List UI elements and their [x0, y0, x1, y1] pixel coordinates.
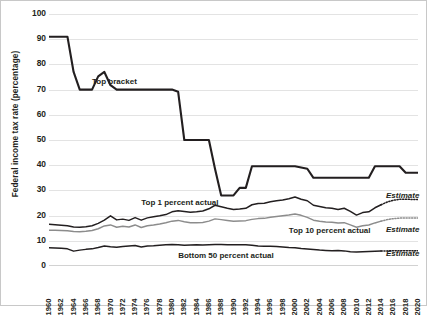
- x-tick-label: 2016: [389, 299, 398, 315]
- annotation-3: Bottom 50 percent actual: [178, 251, 274, 260]
- x-tick-label: 2018: [401, 299, 410, 315]
- x-tick-label: 1998: [278, 299, 287, 315]
- x-tick-label: 1968: [94, 299, 103, 315]
- x-tick-label: 1972: [118, 299, 127, 315]
- x-tick-label: 2012: [364, 299, 373, 315]
- y-tick-label: 40: [12, 160, 46, 169]
- annotation-0: Top bracket: [92, 77, 137, 86]
- y-tick-label: 10: [12, 236, 46, 245]
- estimate-line-1: [381, 218, 418, 221]
- x-tick-label: 1976: [143, 299, 152, 315]
- x-tick-label: 2010: [352, 299, 361, 315]
- estimate-line-0: [381, 199, 418, 205]
- x-tick-label: 2000: [290, 299, 299, 315]
- y-tick-label: 0: [12, 261, 46, 270]
- y-tick-label: 50: [12, 135, 46, 144]
- x-tick-label: 1974: [131, 299, 140, 315]
- y-tick-label: 80: [12, 59, 46, 68]
- x-tick-label: 1986: [204, 299, 213, 315]
- x-tick-label: 2004: [315, 299, 324, 315]
- y-tick-label: 70: [12, 85, 46, 94]
- x-tick-label: 2020: [413, 299, 422, 315]
- x-axis-ticks: 1960196219641966196819701972197419761978…: [49, 269, 418, 307]
- x-tick-label: 1960: [44, 299, 53, 315]
- x-tick-label: 2006: [327, 299, 336, 315]
- x-tick-label: 2002: [303, 299, 312, 315]
- x-tick-label: 1984: [192, 299, 201, 315]
- x-tick-label: 1964: [69, 299, 78, 315]
- x-tick-label: 1990: [229, 299, 238, 315]
- x-tick-label: 1992: [241, 299, 250, 315]
- x-tick-label: 2014: [377, 299, 386, 315]
- y-tick-label: 60: [12, 110, 46, 119]
- x-tick-label: 1996: [266, 299, 275, 315]
- x-tick-label: 1966: [81, 299, 90, 315]
- series-line-0: [49, 37, 418, 196]
- x-tick-label: 1980: [167, 299, 176, 315]
- y-axis-ticks: 0102030405060708090100: [6, 1, 46, 307]
- y-tick-label: 100: [12, 9, 46, 18]
- annotation-1: Top 1 percent actual: [141, 198, 218, 207]
- estimate-label-2: Estimate: [386, 249, 419, 258]
- y-tick-label: 90: [12, 34, 46, 43]
- x-tick-label: 1988: [217, 299, 226, 315]
- y-tick-label: 20: [12, 211, 46, 220]
- x-tick-label: 1970: [106, 299, 115, 315]
- x-tick-label: 1962: [57, 299, 66, 315]
- x-tick-label: 1982: [180, 299, 189, 315]
- y-tick-label: 30: [12, 185, 46, 194]
- estimate-label-1: Estimate: [386, 225, 419, 234]
- x-tick-label: 1994: [254, 299, 263, 315]
- estimate-label-0: Estimate: [386, 191, 419, 200]
- annotation-2: Top 10 percent actual: [289, 226, 371, 235]
- x-tick-label: 1978: [155, 299, 164, 315]
- x-tick-label: 2008: [340, 299, 349, 315]
